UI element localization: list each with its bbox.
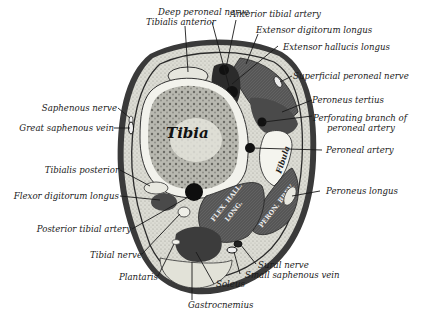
label-extensor-hallucis-longus: Extensor hallucis longus [283, 42, 390, 52]
label-tibialis-posterior: Tibialis posterior [0, 165, 119, 175]
tibial-nerve-vessel [178, 207, 190, 217]
tibia-label: Tibia [166, 124, 209, 142]
label-perforating-branch-line2: peroneal artery [327, 123, 395, 133]
label-plantaris: Plantaris [0, 272, 158, 282]
label-peroneal-artery: Peroneal artery [326, 145, 394, 155]
flexor-digitorum-longus-muscle [151, 193, 177, 211]
leg-cross-section-diagram: Tibia Fibula PERON. BREV. FLEX. HALL. LO… [0, 0, 422, 324]
label-extensor-digitorum-longus: Extensor digitorum longus [256, 25, 372, 35]
label-perforating-branch-line1: Perforating branch of [313, 113, 407, 123]
label-gastrocnemius: Gastrocnemius [188, 300, 253, 310]
label-great-saphenous-vein: Great saphenous vein [0, 123, 114, 133]
tibialis-posterior-muscle [144, 182, 168, 194]
plantaris-tendon [172, 240, 180, 245]
label-superficial-peroneal-nerve: Superficial peroneal nerve [293, 71, 409, 81]
posterior-tibial-artery-vessel [185, 183, 203, 201]
label-posterior-tibial-artery: Posterior tibial artery [0, 224, 131, 234]
label-peroneus-tertius: Peroneus tertius [312, 95, 384, 105]
label-saphenous-nerve: Saphenous nerve [0, 103, 117, 113]
label-sural-nerve: Sural nerve [258, 260, 309, 270]
label-flexor-digitorum-longus: Flexor digitorum longus [0, 191, 119, 201]
label-tibial-nerve: Tibial nerve [0, 250, 142, 260]
label-peroneus-longus: Peroneus longus [326, 186, 398, 196]
label-tibialis-anterior: Tibialis anterior [146, 17, 216, 27]
sural-nerve-vessel [234, 241, 242, 247]
label-anterior-tibial-artery: Anterior tibial artery [230, 9, 321, 19]
label-small-saphenous-vein: Small saphenous vein [245, 270, 340, 280]
small-saphenous-vein-vessel [227, 247, 237, 253]
label-soleus: Soleus [216, 279, 245, 289]
